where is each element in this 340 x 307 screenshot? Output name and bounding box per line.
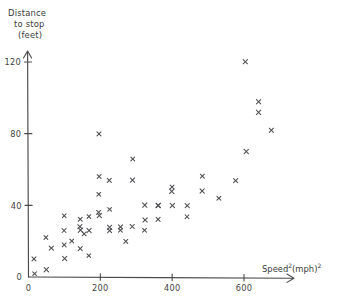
data-point-marker — [87, 254, 91, 258]
data-point-marker — [107, 225, 111, 229]
x-axis-tick-label-200: 200 — [92, 283, 109, 293]
x-axis-tick-label-600: 600 — [236, 283, 253, 293]
data-point-marker — [185, 215, 189, 219]
data-point-marker — [87, 228, 91, 232]
x-axis-tick-label-0: 0 — [26, 283, 32, 293]
data-point-marker — [33, 272, 37, 276]
data-point-marker — [78, 247, 82, 251]
data-point-marker — [143, 203, 147, 207]
y-axis-tick-label-0: 0 — [16, 272, 22, 282]
y-axis-line — [28, 52, 29, 277]
data-point-marker — [143, 228, 147, 232]
y-axis-tick-label-120: 120 — [5, 57, 22, 67]
data-point-marker — [70, 239, 74, 243]
scatter-plot-figure: Distance to stop (feet) Speed2(mph)2 020… — [0, 0, 340, 307]
data-point-marker — [78, 225, 82, 229]
data-point-marker — [118, 225, 122, 229]
data-point-marker — [130, 224, 134, 228]
y-axis-tick-label-40: 40 — [11, 201, 22, 211]
tick-group: 020040060004080120 — [5, 57, 253, 293]
data-point-marker — [62, 229, 66, 233]
data-point-marker — [200, 189, 204, 193]
chart-canvas: 020040060004080120 — [0, 0, 340, 307]
data-point-marker — [143, 218, 147, 222]
x-axis-line — [29, 277, 294, 278]
data-point-marker — [200, 174, 204, 178]
data-point-marker — [124, 239, 128, 243]
data-point-marker — [269, 128, 273, 132]
data-point-marker — [62, 243, 66, 247]
data-point-marker — [131, 157, 135, 161]
data-point-marker — [82, 232, 86, 236]
y-axis-tick-label-80: 80 — [10, 129, 21, 139]
data-point-marker — [44, 236, 48, 240]
data-point-marker — [130, 178, 134, 182]
data-point-marker — [156, 217, 160, 221]
data-point-marker — [256, 110, 260, 114]
axes-group — [24, 51, 295, 282]
data-point-marker — [234, 179, 238, 183]
data-point-marker — [78, 217, 82, 221]
data-point-marker — [170, 185, 174, 189]
data-point-marker — [97, 192, 101, 196]
data-point-marker — [156, 204, 160, 208]
data-point-marker — [63, 256, 67, 260]
data-point-marker — [97, 132, 101, 136]
data-point-marker — [170, 189, 174, 193]
data-point-marker — [217, 196, 221, 200]
data-point-marker — [243, 60, 247, 64]
data-points-group — [32, 60, 273, 276]
data-point-marker — [32, 257, 36, 261]
x-axis-tick-label-400: 400 — [164, 283, 181, 293]
data-point-marker — [107, 178, 111, 182]
data-point-marker — [170, 203, 174, 207]
data-point-marker — [97, 175, 101, 179]
data-point-marker — [49, 246, 53, 250]
data-point-marker — [97, 210, 101, 214]
data-point-marker — [62, 214, 66, 218]
data-point-marker — [44, 267, 48, 271]
data-point-marker — [87, 215, 91, 219]
data-point-marker — [257, 100, 261, 104]
data-point-marker — [185, 204, 189, 208]
data-point-marker — [244, 149, 248, 153]
data-point-marker — [108, 208, 112, 212]
